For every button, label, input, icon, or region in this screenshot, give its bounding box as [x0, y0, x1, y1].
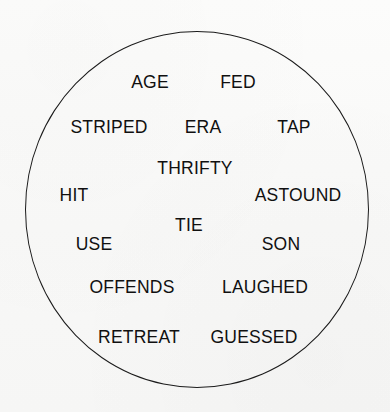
word-age: AGE [131, 74, 169, 92]
word-hit: HIT [60, 187, 89, 205]
word-era: ERA [185, 119, 222, 137]
circle-outline [25, 31, 369, 388]
word-tap: TAP [277, 119, 310, 137]
word-laughed: LAUGHED [222, 279, 308, 297]
word-guessed: GUESSED [211, 329, 298, 347]
word-use: USE [76, 236, 113, 254]
word-astound: ASTOUND [255, 187, 342, 205]
word-striped: STRIPED [70, 119, 147, 137]
word-fed: FED [220, 74, 256, 92]
word-offends: OFFENDS [89, 279, 174, 297]
word-son: SON [262, 236, 301, 254]
word-tie: TIE [175, 217, 203, 235]
word-retreat: RETREAT [98, 329, 180, 347]
word-circle-figure: AGEFEDSTRIPEDERATAPTHRIFTYHITASTOUNDTIEU… [0, 0, 390, 412]
word-thrifty: THRIFTY [157, 160, 232, 178]
